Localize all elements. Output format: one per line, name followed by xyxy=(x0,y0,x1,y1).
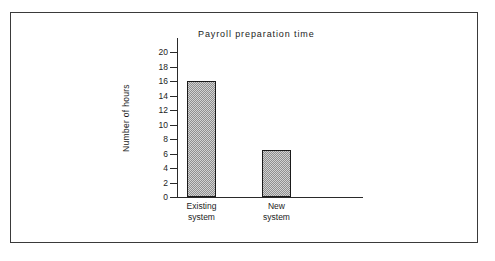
x-axis-line xyxy=(177,197,363,198)
y-axis-tick xyxy=(170,67,177,68)
bar-chart: Payroll preparation time Number of hours… xyxy=(0,0,495,261)
category-label-line: system xyxy=(164,212,240,223)
y-axis-tick-label-wrap: 14 xyxy=(142,96,168,97)
y-axis-tick xyxy=(170,110,177,111)
y-axis-tick-label: 6 xyxy=(146,149,168,159)
y-axis-tick xyxy=(170,81,177,82)
y-axis-tick-label-wrap: 16 xyxy=(142,81,168,82)
category-label-line: New xyxy=(239,201,315,212)
y-axis-tick-label-wrap: 2 xyxy=(142,183,168,184)
y-axis-tick-label-wrap: 10 xyxy=(142,125,168,126)
y-axis-tick-label: 8 xyxy=(146,134,168,144)
y-axis-tick xyxy=(170,197,177,198)
bar xyxy=(262,150,291,197)
category-label-line: Existing xyxy=(164,201,240,212)
chart-title: Payroll preparation time xyxy=(198,29,315,39)
y-axis-tick xyxy=(170,168,177,169)
bar xyxy=(187,81,216,197)
y-axis-tick-label-wrap: 18 xyxy=(142,67,168,68)
y-axis-tick xyxy=(170,183,177,184)
y-axis-tick-label: 4 xyxy=(146,163,168,173)
y-axis-tick-label-wrap: 8 xyxy=(142,139,168,140)
x-axis-category-label: Newsystem xyxy=(239,201,315,223)
y-axis-tick-label: 18 xyxy=(146,62,168,72)
y-axis-tick-label: 2 xyxy=(146,178,168,188)
y-axis-tick-label: 12 xyxy=(146,105,168,115)
y-axis-tick xyxy=(170,139,177,140)
y-axis-tick-label-wrap: 20 xyxy=(142,52,168,53)
y-axis-tick-label-wrap: 12 xyxy=(142,110,168,111)
y-axis-tick-label-wrap: 0 xyxy=(142,197,168,198)
category-label-line: system xyxy=(239,212,315,223)
x-axis-category-label: Existingsystem xyxy=(164,201,240,223)
y-axis-tick-label: 16 xyxy=(146,76,168,86)
y-axis-tick xyxy=(170,52,177,53)
y-axis-tick-label: 20 xyxy=(146,47,168,57)
y-axis-tick xyxy=(170,96,177,97)
y-axis-line xyxy=(177,38,178,198)
y-axis-tick xyxy=(170,125,177,126)
y-axis-tick-label: 10 xyxy=(146,120,168,130)
y-axis-tick xyxy=(170,154,177,155)
y-axis-tick-label-wrap: 6 xyxy=(142,154,168,155)
y-axis-title: Number of hours xyxy=(121,84,131,152)
y-axis-tick-label: 14 xyxy=(146,91,168,101)
y-axis-tick-label-wrap: 4 xyxy=(142,168,168,169)
